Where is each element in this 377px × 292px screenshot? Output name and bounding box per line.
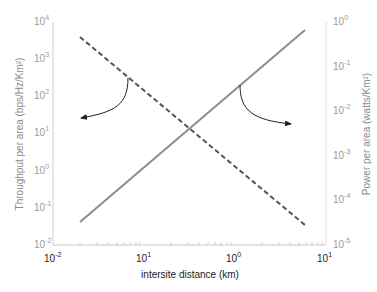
chart: 104 103 102 101 100 10-1 10-2 100 10-1 1…: [0, 0, 377, 292]
svg-text:101: 101: [34, 125, 49, 138]
svg-text:100: 100: [333, 14, 348, 27]
svg-text:101: 101: [317, 251, 332, 264]
svg-text:10-5: 10-5: [333, 237, 350, 250]
annotation-arrow-right: [240, 85, 291, 124]
x-axis-title: intersite distance (km): [141, 269, 239, 280]
svg-text:101: 101: [136, 251, 151, 264]
svg-text:100: 100: [34, 163, 49, 176]
y-right-tick-labels: 100 10-1 10-2 10-3 10-4 10-5: [333, 14, 350, 250]
svg-text:10-2: 10-2: [333, 103, 350, 116]
svg-text:10-2: 10-2: [34, 237, 51, 250]
svg-text:10-4: 10-4: [333, 192, 350, 205]
svg-text:104: 104: [34, 14, 49, 27]
y-right-axis-title: Power per area (watts/Km²): [361, 73, 372, 195]
svg-text:100: 100: [226, 251, 241, 264]
svg-text:10-3: 10-3: [333, 148, 350, 161]
svg-text:10-2: 10-2: [44, 251, 61, 264]
svg-text:102: 102: [34, 88, 49, 101]
annotation-arrow-left: [81, 78, 128, 118]
svg-text:103: 103: [34, 51, 49, 64]
series-throughput-dashed-line: [80, 37, 305, 225]
y-left-tick-labels: 104 103 102 101 100 10-1 10-2: [34, 14, 51, 250]
svg-text:10-1: 10-1: [333, 59, 350, 72]
series-power-solid-line: [80, 30, 305, 222]
svg-text:10-1: 10-1: [34, 200, 51, 213]
y-left-axis-title: Throughput per area (bps/Hz/Km²): [14, 58, 25, 211]
x-tick-labels: 10-2 101 100 101: [44, 251, 332, 264]
axes-frame: [53, 22, 326, 245]
